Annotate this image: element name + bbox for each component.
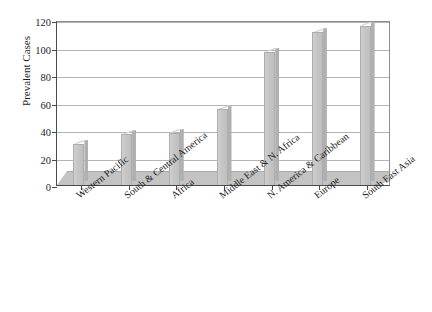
bar-side-face [132,130,136,181]
bar [217,109,232,185]
bar [360,26,375,186]
bar-side-face [371,22,375,182]
bar-chart: Prevalent Cases 020406080100120 Western … [0,0,432,312]
bar-side-face [228,105,232,181]
bar [73,144,88,185]
bar-series [57,22,389,185]
bar-side-face [84,140,88,181]
bar-outline [360,26,371,186]
bar-outline [73,144,84,185]
y-tick-mark [52,187,57,188]
bar-side-face [275,48,279,181]
plot-area: 020406080100120 [56,21,390,186]
bar-outline [217,109,228,185]
y-axis-title: Prevalent Cases [20,1,32,141]
